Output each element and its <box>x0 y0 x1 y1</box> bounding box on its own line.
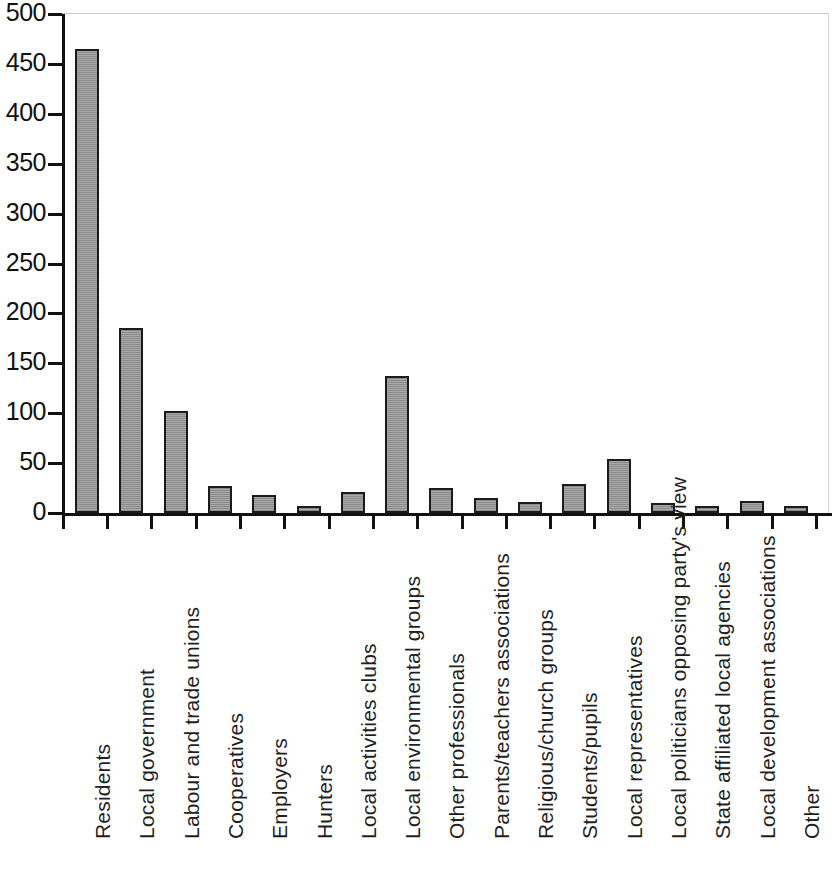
y-axis-tick <box>48 362 62 365</box>
x-axis-category-label: Local activities clubs <box>358 643 379 839</box>
y-axis-tick <box>48 312 62 315</box>
y-axis-tick-label: 0 <box>0 499 46 524</box>
x-axis-tick <box>549 516 552 529</box>
y-axis-tick-label-text: 300 <box>2 200 46 225</box>
y-axis-tick <box>48 412 62 415</box>
y-axis-tick-label-text: 450 <box>2 50 46 75</box>
plot-area <box>62 14 832 516</box>
x-axis-category-label: Local development associations <box>757 535 778 839</box>
x-axis-tick <box>62 516 65 529</box>
y-axis-tick-label: 500 <box>0 0 46 25</box>
x-axis-tick <box>328 516 331 529</box>
x-axis-tick <box>815 516 818 529</box>
x-axis-category-label: Local environmental groups <box>402 576 423 839</box>
y-axis-tick-label: 50 <box>0 449 46 474</box>
x-axis-category-label: Religious/church groups <box>535 609 556 839</box>
x-axis-category-label: Cooperatives <box>225 713 246 839</box>
y-axis-tick <box>48 462 62 465</box>
y-axis-tick-label: 250 <box>0 250 46 275</box>
x-axis-tick <box>106 516 109 529</box>
y-axis-tick <box>48 263 62 266</box>
y-axis-tick-label-text: 250 <box>2 250 46 275</box>
x-axis-category-label: Other professionals <box>446 653 467 839</box>
y-axis-tick-label: 450 <box>0 50 46 75</box>
bar <box>562 484 586 513</box>
bar <box>208 486 232 513</box>
y-axis-tick-label: 200 <box>0 299 46 324</box>
bar <box>75 49 99 513</box>
y-axis-tick-label-text: 0 <box>2 499 46 524</box>
bar <box>695 506 719 513</box>
bar <box>607 459 631 513</box>
x-axis-category-label: Employers <box>269 738 290 839</box>
x-axis-category-label: Local representatives <box>624 635 645 839</box>
x-axis-tick <box>372 516 375 529</box>
y-axis-tick <box>48 113 62 116</box>
x-axis-category-label: Other <box>801 785 822 839</box>
bar <box>385 376 409 513</box>
y-axis-tick-label: 400 <box>0 100 46 125</box>
x-axis-category-label: Local government <box>136 669 157 839</box>
bar <box>429 488 453 513</box>
x-axis-tick <box>771 516 774 529</box>
y-axis-tick-label-text: 100 <box>2 399 46 424</box>
y-axis-tick-label: 350 <box>0 150 46 175</box>
x-axis-tick <box>195 516 198 529</box>
x-axis-tick <box>638 516 641 529</box>
y-axis-tick-label-text: 350 <box>2 150 46 175</box>
x-axis-category-label: Residents <box>92 744 113 839</box>
bar <box>297 506 321 513</box>
x-axis-tick <box>150 516 153 529</box>
y-axis-tick-label-text: 50 <box>2 449 46 474</box>
bar <box>784 506 808 513</box>
y-axis-tick <box>48 512 62 515</box>
y-axis-tick <box>48 213 62 216</box>
y-axis-tick-label-text: 200 <box>2 299 46 324</box>
x-axis-category-label: Parents/teachers associations <box>491 553 512 839</box>
x-axis-category-label: Local politicians opposing party's view <box>668 477 689 839</box>
bar <box>164 411 188 513</box>
bar <box>252 495 276 513</box>
bar <box>474 498 498 513</box>
y-axis-tick <box>48 163 62 166</box>
x-axis-tick <box>416 516 419 529</box>
y-axis-tick-label-text: 500 <box>2 0 46 25</box>
y-axis-tick-label-text: 150 <box>2 349 46 374</box>
x-axis-tick <box>461 516 464 529</box>
x-axis-tick <box>283 516 286 529</box>
bar <box>341 492 365 513</box>
bar <box>740 501 764 513</box>
x-axis-category-label: Labour and trade unions <box>181 607 202 839</box>
y-axis-tick <box>48 63 62 66</box>
x-axis-tick <box>239 516 242 529</box>
y-axis-tick <box>48 13 62 16</box>
bar <box>518 502 542 513</box>
x-axis-category-label: State affiliated local agencies <box>712 561 733 839</box>
x-axis-tick <box>505 516 508 529</box>
y-axis-tick-label: 100 <box>0 399 46 424</box>
x-axis-category-label: Hunters <box>314 764 335 839</box>
x-axis-category-label: Students/pupils <box>579 692 600 839</box>
bar <box>119 328 143 513</box>
x-axis-tick <box>593 516 596 529</box>
y-axis-tick-label: 150 <box>0 349 46 374</box>
x-axis-tick <box>726 516 729 529</box>
y-axis-tick-label: 300 <box>0 200 46 225</box>
y-axis-tick-label-text: 400 <box>2 100 46 125</box>
